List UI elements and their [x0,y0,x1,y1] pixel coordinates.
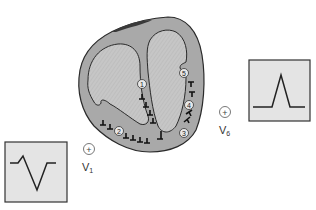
svg-text:5: 5 [182,70,186,77]
lead-label-v6: V6 [219,125,230,137]
step-marker-1: 1 [138,80,147,89]
lead-label-v1-subscript: 1 [89,167,93,174]
electrode-v6: + [220,107,231,118]
diagram-canvas: 1 2 3 4 5 + + [0,0,316,210]
svg-text:3: 3 [182,130,186,137]
step-marker-5: 5 [180,69,189,78]
step-marker-4: 4 [185,101,194,110]
ecg-box-v1 [5,142,67,202]
svg-text:1: 1 [140,81,144,88]
lead-label-v6-subscript: 6 [226,130,230,137]
ecg-box-v6 [249,60,310,121]
electrode-v1: + [84,144,95,155]
svg-text:+: + [222,108,227,118]
heart: 1 2 3 4 5 [79,17,204,152]
svg-text:4: 4 [187,102,191,109]
lead-label-v1: V1 [82,162,93,174]
step-marker-2: 2 [115,127,124,136]
step-marker-3: 3 [180,129,189,138]
svg-text:2: 2 [117,128,121,135]
svg-text:+: + [86,145,91,155]
